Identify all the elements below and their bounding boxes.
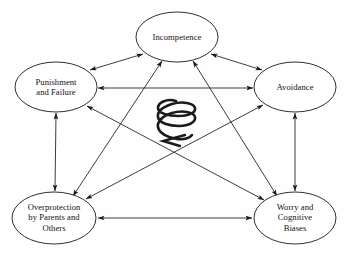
edge-incompetence-avoidance [211, 54, 262, 70]
node-incompetence[interactable] [136, 12, 218, 62]
diagram-canvas: Incompetence Punishment and Failure Avoi… [0, 0, 350, 262]
edge-punishment-incompetence [90, 54, 143, 70]
downward-spiral-icon [158, 100, 195, 146]
node-overprotection-by-parents-and-others[interactable] [12, 192, 96, 244]
diagram-graphics [0, 0, 350, 262]
node-punishment-and-failure[interactable] [15, 62, 97, 112]
edge-punishment-worry [87, 106, 264, 200]
node-worry-and-cognitive-biases[interactable] [254, 192, 336, 244]
nodes-layer [12, 12, 336, 244]
edge-punishment-overprotection [55, 113, 56, 191]
node-avoidance[interactable] [254, 62, 336, 112]
